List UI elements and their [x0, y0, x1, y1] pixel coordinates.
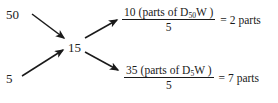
fraction-top-denominator: 5	[164, 20, 174, 33]
allegation-diagram: 50 5 15 10 (parts of D50W ) 5 =2 parts 3…	[0, 0, 278, 103]
fraction-bottom-numerator: 35 (parts of D5W )	[124, 64, 214, 77]
fraction-top-numerator-value: 10	[124, 6, 136, 18]
fraction-bottom-result-value: 7 parts	[228, 72, 259, 84]
fraction-top-equals: =	[220, 14, 227, 26]
fraction-top-numerator-close: W )	[196, 6, 213, 18]
fraction-top-numerator: 10 (parts of D50W )	[122, 6, 215, 19]
arrow-5-to-15	[22, 50, 63, 76]
branch-top: 10 (parts of D50W ) 5 =2 parts	[122, 6, 261, 33]
fraction-top-numerator-open: (parts of D	[139, 6, 189, 18]
fraction-bottom-numerator-open: (parts of D	[141, 64, 191, 76]
fraction-top-result: =2 parts	[220, 14, 260, 26]
arrow-15-to-top-fraction	[85, 20, 117, 38]
fraction-bottom-numerator-close: W )	[194, 64, 211, 76]
fraction-bottom-equals: =	[219, 72, 226, 84]
fraction-bottom-result: =7 parts	[219, 72, 259, 84]
arrow-15-to-bottom-fraction	[85, 52, 118, 70]
fraction-bottom-denominator: 5	[164, 78, 174, 91]
fraction-top-result-value: 2 parts	[230, 14, 261, 26]
branch-bottom: 35 (parts of D5W ) 5 =7 parts	[124, 64, 259, 91]
fraction-top: 10 (parts of D50W ) 5	[122, 6, 215, 33]
fraction-bottom-numerator-value: 35	[126, 64, 138, 76]
fraction-bottom: 35 (parts of D5W ) 5	[124, 64, 214, 91]
arrow-50-to-15	[32, 14, 64, 38]
